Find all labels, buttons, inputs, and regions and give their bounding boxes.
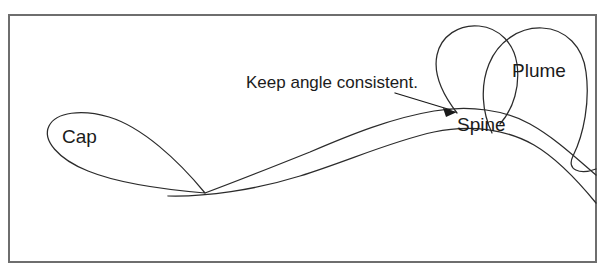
cap-label: Cap	[62, 126, 97, 147]
spine-lower-edge	[168, 128, 596, 203]
spine-upper-edge	[205, 109, 596, 193]
leader-arrow-line	[395, 93, 451, 110]
plume-label: Plume	[512, 60, 566, 81]
note-label: Keep angle consistent.	[246, 73, 418, 92]
spine-label: Spine	[457, 114, 506, 135]
diagram-svg: Keep angle consistent. Cap Spine Plume	[0, 0, 605, 271]
cap-teardrop	[47, 113, 205, 193]
diagram-canvas: Keep angle consistent. Cap Spine Plume	[0, 0, 605, 271]
plume-back-teardrop	[483, 28, 596, 172]
diagram-frame	[9, 15, 596, 262]
